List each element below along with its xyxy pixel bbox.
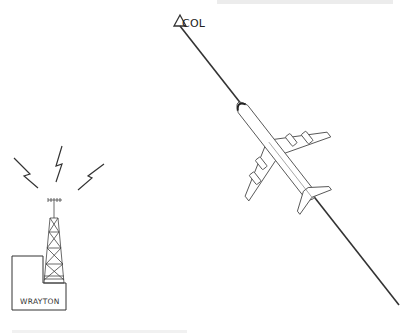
radio-tower-icon (44, 198, 64, 283)
diagram-canvas (0, 0, 408, 335)
waypoint-label: COL (182, 17, 205, 30)
airplane-icon (197, 71, 357, 234)
station-label: WRAYTON (20, 297, 60, 306)
lightning-bolt-icon (14, 146, 104, 190)
